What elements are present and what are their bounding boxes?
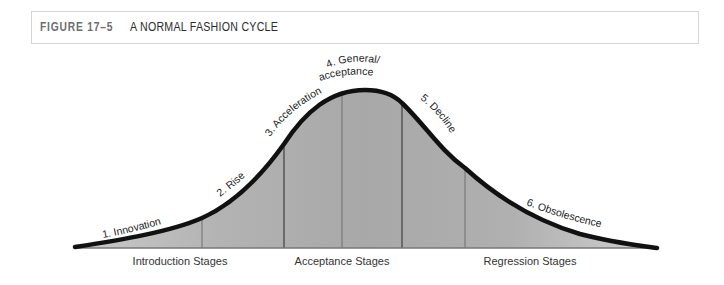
stage-introduction: Introduction Stages [133,255,228,267]
label-general-acceptance-line2: acceptance [317,65,374,83]
fashion-cycle-diagram: 1. Innovation 2. Rise 3. Acceleration 4.… [0,0,724,285]
curve-fill-area [75,90,657,248]
stage-acceptance: Acceptance Stages [295,255,390,267]
stage-regression: Regression Stages [484,255,577,267]
